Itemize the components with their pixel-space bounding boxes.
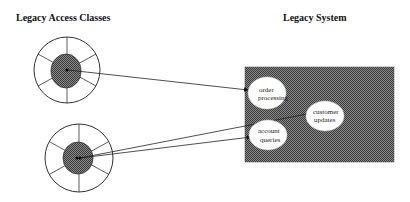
access-class-bottom [45, 124, 113, 192]
process-label: account [258, 127, 280, 135]
process-customer-updates: customer updates [306, 101, 344, 131]
process-label: customer [313, 108, 339, 116]
process-account-queries: account queries [249, 120, 287, 150]
process-label: order [259, 86, 274, 94]
diagram-canvas: order processing customer updates accoun… [0, 0, 410, 202]
access-class-top [34, 37, 100, 103]
process-label: updates [314, 116, 336, 124]
process-label: processing [258, 94, 288, 102]
process-label: queries [260, 136, 280, 144]
